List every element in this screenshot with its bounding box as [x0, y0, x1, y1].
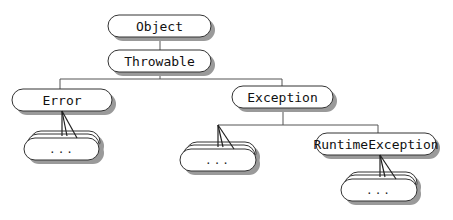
node-object: Object	[108, 15, 215, 41]
node-exception-label: Exception	[247, 90, 317, 105]
connectors	[60, 37, 378, 133]
node-throwable-label: Throwable	[124, 54, 195, 69]
node-error-label: Error	[42, 93, 81, 108]
node-object-label: Object	[136, 19, 183, 34]
stack-error-label: ...	[49, 143, 75, 156]
node-runtime-exception: RuntimeException	[313, 133, 440, 159]
node-throwable: Throwable	[108, 50, 215, 76]
node-runtime-exception-label: RuntimeException	[313, 137, 438, 152]
stack-exception-label: ...	[205, 154, 231, 167]
stack-exception-subclasses: ...	[180, 125, 260, 175]
class-hierarchy-diagram: Object Throwable Error Exception Runtime…	[0, 0, 453, 220]
stack-runtime-subclasses: ...	[341, 155, 421, 205]
stack-error-subclasses: ...	[24, 111, 104, 164]
node-exception: Exception	[232, 86, 337, 112]
stack-runtime-label: ...	[366, 184, 392, 197]
node-error: Error	[12, 89, 116, 115]
